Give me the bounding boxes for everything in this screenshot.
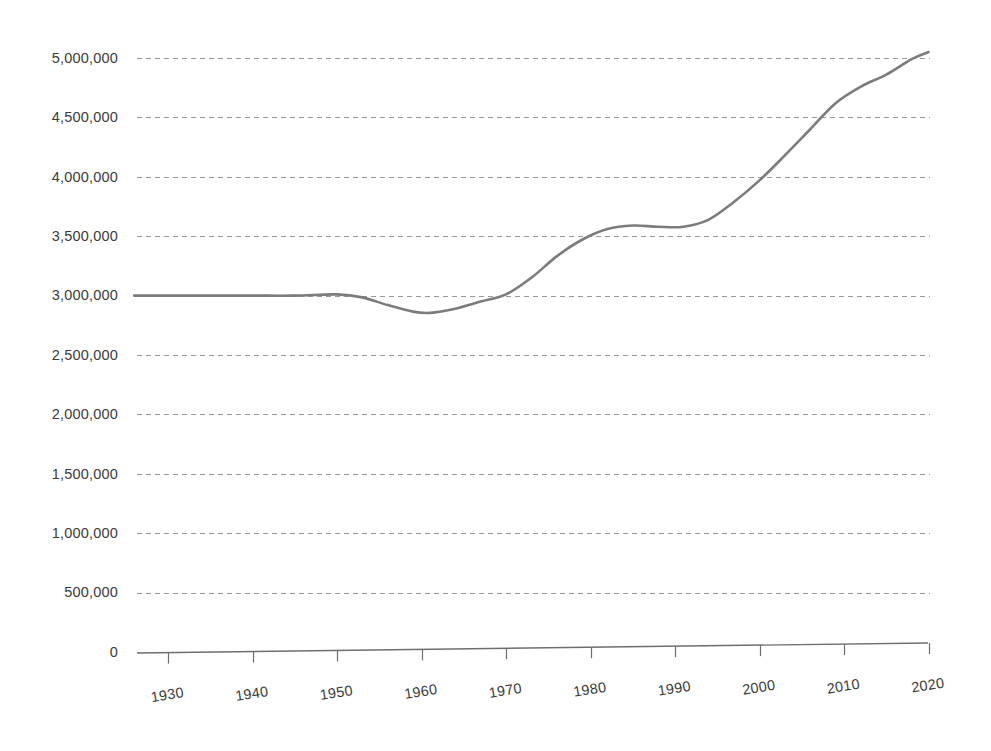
- x-axis-group: [137, 643, 930, 664]
- x-axis-line: [137, 643, 928, 653]
- x-axis-tick-label: 2020: [910, 675, 945, 696]
- y-axis-tick-label: 0: [110, 644, 118, 660]
- chart-container: 0500,0001,000,0001,500,0002,000,0002,500…: [0, 0, 991, 751]
- line-chart: 0500,0001,000,0001,500,0002,000,0002,500…: [0, 0, 991, 751]
- y-axis-tick-label: 4,000,000: [52, 169, 118, 185]
- y-axis-tick-label: 2,000,000: [52, 406, 118, 422]
- x-axis-tick-label: 2010: [826, 676, 861, 697]
- y-axis-tick-label: 3,500,000: [52, 228, 118, 244]
- population-line-series: [134, 52, 928, 313]
- x-axis-tick-label: 1970: [488, 680, 523, 701]
- x-axis-tick-label: 1940: [234, 683, 269, 704]
- y-axis-tick-label: 3,000,000: [52, 287, 118, 303]
- data-series-group: [134, 52, 928, 313]
- x-axis-tick-label: 1960: [403, 681, 438, 702]
- x-axis-tick-label: 1990: [657, 678, 692, 699]
- gridlines-group: [137, 59, 930, 594]
- x-axis-tick-label: 1980: [572, 679, 607, 700]
- y-axis-tick-label: 4,500,000: [52, 109, 118, 125]
- x-axis-tick-label: 2000: [741, 677, 776, 698]
- y-axis-tick-label: 1,000,000: [52, 525, 118, 541]
- y-axis-tick-label: 1,500,000: [52, 466, 118, 482]
- y-axis-tick-label: 500,000: [64, 584, 118, 600]
- x-axis-tick-label: 1930: [150, 684, 185, 705]
- y-axis-tick-label: 2,500,000: [52, 347, 118, 363]
- x-axis-labels-group: 1930194019501960197019801990200020102020: [150, 675, 946, 706]
- x-axis-tick-label: 1950: [319, 682, 354, 703]
- y-axis-tick-label: 5,000,000: [52, 50, 118, 66]
- y-axis-labels-group: 0500,0001,000,0001,500,0002,000,0002,500…: [52, 50, 118, 660]
